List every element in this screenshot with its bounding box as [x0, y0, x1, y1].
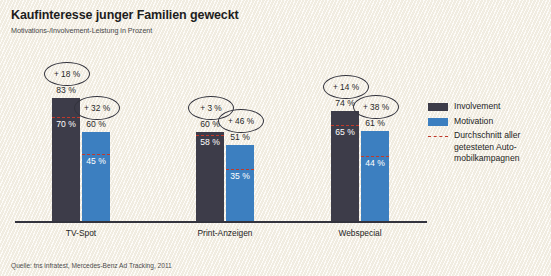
bar-motivation-tv-spot — [82, 132, 110, 221]
delta-badge-motivation-1: + 46 % — [218, 109, 264, 133]
legend-label-motivation: Motivation — [454, 116, 493, 128]
legend-item-motivation: Motivation — [428, 116, 546, 128]
chart-legend: Involvement Motivation Durchschnitt alle… — [428, 101, 546, 168]
average-label-motivation-1: 35 % — [222, 171, 258, 181]
delta-badge-involvement-0: + 18 % — [44, 62, 90, 86]
chart-page: Kaufinteresse junger Familien geweckt Mo… — [0, 0, 551, 276]
average-label-involvement-2: 65 % — [327, 127, 363, 137]
average-line-motivation-2 — [361, 156, 389, 157]
average-line-motivation-1 — [226, 169, 254, 170]
involvement-swatch-icon — [428, 103, 448, 111]
average-label-motivation-0: 45 % — [78, 156, 114, 166]
category-label-tv-spot: TV-Spot — [22, 228, 140, 238]
average-label-motivation-2: 44 % — [357, 158, 393, 168]
delta-badge-involvement-2: + 14 % — [323, 75, 369, 99]
category-label-webspecial: Webspecial — [301, 228, 419, 238]
legend-label-average: Durchschnitt aller getesteten Auto-mobil… — [454, 130, 546, 165]
bar-motivation-print-anzeigen — [226, 145, 254, 221]
legend-label-involvement: Involvement — [454, 101, 500, 113]
value-label-motivation-2: 61 % — [355, 118, 395, 128]
value-label-motivation-0: 60 % — [76, 119, 116, 129]
page-subtitle: Motivations-/Involvement-Leistung in Pro… — [11, 26, 152, 35]
x-axis-line — [15, 221, 427, 223]
value-label-motivation-1: 51 % — [220, 132, 260, 142]
motivation-swatch-icon — [428, 118, 448, 126]
delta-badge-motivation-2: + 38 % — [353, 95, 399, 119]
page-title: Kaufinteresse junger Familien geweckt — [11, 8, 239, 22]
average-line-motivation-0 — [82, 154, 110, 155]
average-dashed-swatch-icon — [428, 136, 448, 137]
bar-motivation-webspecial — [361, 131, 389, 221]
value-label-involvement-0: 83 % — [46, 85, 86, 95]
delta-badge-motivation-0: + 32 % — [74, 96, 120, 120]
legend-item-involvement: Involvement — [428, 101, 546, 113]
legend-item-average: Durchschnitt aller getesteten Auto-mobil… — [428, 130, 546, 165]
source-note: Quelle: tns infratest, Mercedes-Benz Ad … — [11, 262, 172, 269]
category-label-print-anzeigen: Print-Anzeigen — [166, 228, 284, 238]
